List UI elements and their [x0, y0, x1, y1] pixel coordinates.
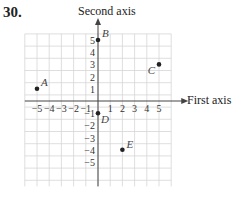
y-tick-label: −4	[84, 145, 95, 156]
y-tick-label: 4	[90, 47, 95, 58]
y-tick-label: 5	[90, 35, 95, 46]
point-label: A	[40, 76, 48, 88]
y-tick-label: 3	[90, 59, 95, 70]
x-tick-label: −5	[32, 103, 43, 114]
coordinate-plane: −5−4−3−2−11234554321−1−2−3−4−5ABCDE	[0, 0, 239, 202]
y-tick-label: 1	[90, 84, 95, 95]
point-label: D	[100, 113, 109, 125]
point-label: C	[148, 64, 156, 76]
y-tick-label: −1	[84, 108, 95, 119]
x-tick-label: −2	[68, 103, 79, 114]
y-tick-label: −2	[84, 120, 95, 131]
point-c	[157, 62, 162, 67]
point-label: E	[125, 138, 133, 150]
x-tick-label: 5	[157, 103, 162, 114]
point-b	[96, 38, 101, 43]
x-tick-label: −3	[56, 103, 67, 114]
y-tick-label: 2	[90, 72, 95, 83]
point-label: B	[102, 27, 109, 39]
y-axis-arrow-icon	[95, 18, 101, 25]
x-tick-label: −4	[44, 103, 55, 114]
point-a	[35, 87, 40, 92]
x-tick-label: 3	[132, 103, 137, 114]
x-tick-label: 2	[120, 103, 125, 114]
point-e	[120, 148, 125, 153]
x-tick-label: 4	[144, 103, 149, 114]
y-tick-label: −3	[84, 133, 95, 144]
point-d	[96, 111, 101, 116]
y-tick-label: −5	[84, 157, 95, 168]
x-axis-arrow-icon	[181, 98, 188, 104]
